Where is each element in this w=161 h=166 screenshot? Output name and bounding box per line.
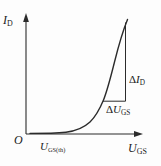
origin-symbol: O [14,133,23,147]
transfer-curve [30,20,128,134]
delta-ugs-symbol: U [113,103,121,115]
y-axis-arrowhead [23,13,29,22]
threshold-symbol: U [40,140,48,152]
y-axis-label: ID [3,14,13,26]
x-axis-subscript: GS [137,147,147,156]
threshold-subscript: GS(th) [48,146,65,153]
delta-id-label: ΔID [129,74,145,85]
threshold-voltage-label: UGS(th) [40,141,65,152]
delta-ugs-label: ΔUGS [106,104,130,115]
x-axis-symbol: U [128,141,137,155]
figure-root: ID UGS O UGS(th) ΔID ΔUGS [0,0,161,166]
y-axis-subscript: D [7,19,13,28]
delta-ugs-subscript: GS [121,109,130,117]
delta-id-subscript: D [140,79,145,87]
origin-label: O [14,134,23,146]
x-axis-label: UGS [128,142,147,154]
x-axis-arrowhead [134,131,143,137]
